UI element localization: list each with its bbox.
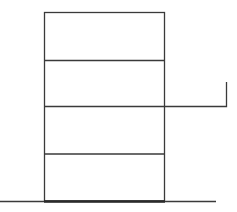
building-diagram <box>0 0 237 212</box>
extension-hook <box>165 82 227 107</box>
